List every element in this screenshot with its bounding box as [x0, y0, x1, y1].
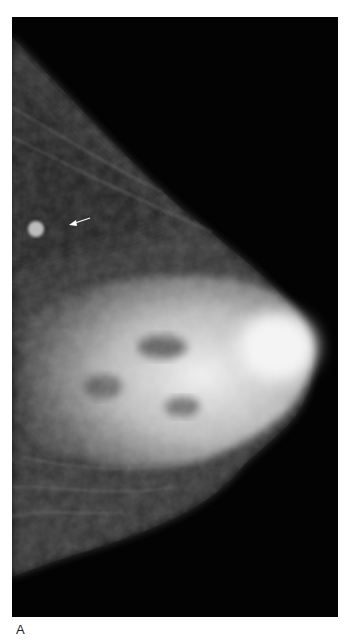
- panel-label: A: [16, 622, 25, 637]
- mammogram-image: [12, 17, 338, 617]
- mammogram-rendering: [12, 17, 338, 617]
- mass-lesion: [28, 221, 44, 237]
